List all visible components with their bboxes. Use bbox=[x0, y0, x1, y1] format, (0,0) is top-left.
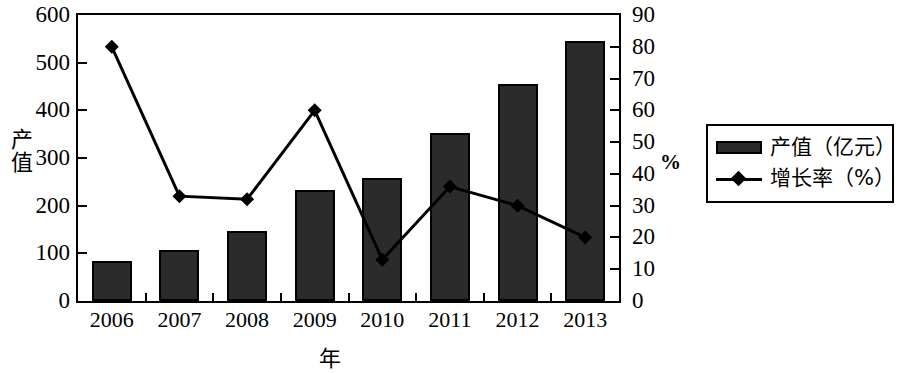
x-tick-label: 2011 bbox=[413, 308, 487, 332]
diamond-marker bbox=[172, 189, 186, 203]
diamond-marker bbox=[578, 230, 592, 244]
legend: 产值（亿元） 增长率（%） bbox=[706, 124, 894, 203]
secondary-y-tick-label: 20 bbox=[632, 225, 678, 248]
secondary-y-tick-label: 40 bbox=[632, 162, 678, 185]
diamond-marker bbox=[511, 199, 525, 213]
secondary-y-tick-label: 0 bbox=[632, 289, 678, 312]
x-tick-label: 2012 bbox=[481, 308, 555, 332]
y-tick-label: 100 bbox=[24, 241, 70, 264]
legend-diamond-marker-icon bbox=[731, 170, 747, 186]
secondary-y-tick-label: 80 bbox=[632, 35, 678, 58]
y-tick-label: 200 bbox=[24, 194, 70, 217]
x-tick-label: 2006 bbox=[75, 308, 149, 332]
plot-inner bbox=[78, 15, 619, 301]
y-tick-label: 0 bbox=[24, 289, 70, 312]
secondary-y-tick-label: 10 bbox=[632, 257, 678, 280]
y-tick-label: 400 bbox=[24, 98, 70, 121]
x-tick-label: 2010 bbox=[345, 308, 419, 332]
y-tick-label: 300 bbox=[24, 146, 70, 169]
secondary-y-tick-label: 30 bbox=[632, 194, 678, 217]
legend-label-bar: 产值（亿元） bbox=[770, 137, 896, 158]
secondary-y-tick-label: 50 bbox=[632, 130, 678, 153]
x-tick-label: 2007 bbox=[142, 308, 216, 332]
x-axis-title: 年 bbox=[0, 340, 660, 372]
secondary-y-tick-label: 90 bbox=[632, 3, 678, 26]
y-tick-label: 500 bbox=[24, 51, 70, 74]
line-path bbox=[112, 47, 585, 260]
legend-label-line: 增长率（%） bbox=[770, 168, 895, 189]
secondary-y-tick-label: 70 bbox=[632, 67, 678, 90]
y-tick-label: 600 bbox=[24, 3, 70, 26]
legend-item-line: 增长率（%） bbox=[716, 163, 884, 194]
secondary-y-tick-label: 60 bbox=[632, 98, 678, 121]
line-diamond-swatch-icon bbox=[716, 172, 762, 186]
bar-swatch-icon bbox=[716, 141, 762, 154]
chart-page: 产值 % 年 6005004003002001000 9080706050403… bbox=[0, 0, 903, 373]
x-tick-label: 2008 bbox=[210, 308, 284, 332]
line-series bbox=[78, 15, 619, 301]
plot-area bbox=[76, 13, 621, 303]
legend-item-bar: 产值（亿元） bbox=[716, 132, 884, 163]
diamond-marker bbox=[105, 40, 119, 54]
x-tick-label: 2013 bbox=[548, 308, 622, 332]
x-tick-label: 2009 bbox=[278, 308, 352, 332]
